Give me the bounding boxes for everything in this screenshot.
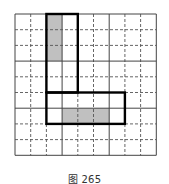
- figure: 图 265: [0, 0, 169, 184]
- grid-lines: [15, 14, 156, 155]
- figure-caption: 图 265: [0, 171, 169, 184]
- shaded-vertical: [46, 14, 62, 61]
- shaded-horizontal: [62, 108, 109, 124]
- grid-diagram: [0, 0, 169, 168]
